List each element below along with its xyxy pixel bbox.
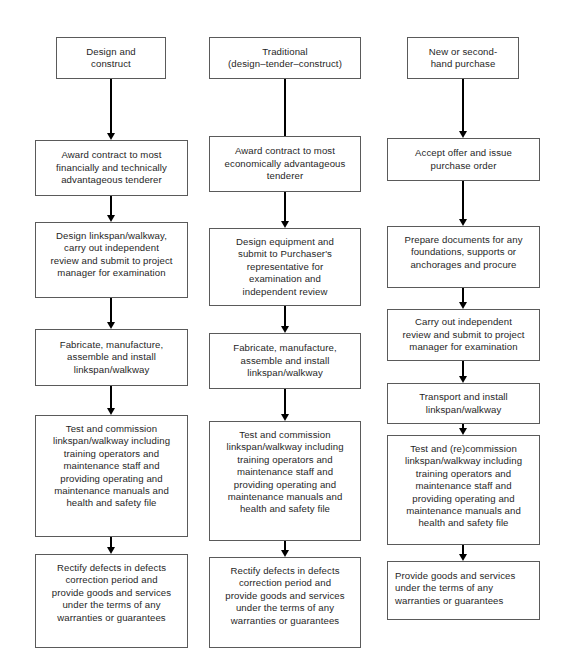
node-col2-step5: Rectify defects in defects correction pe… [209,557,361,648]
node-col3-step6-label: Provide goods and services under the ter… [395,570,536,607]
node-col3-step5: Test and (re)commission linkspan/walkway… [387,435,540,545]
node-col1-step3-label: Fabricate, manufacture, assemble and ins… [39,339,184,376]
node-col2-step4-label: Test and commission linkspan/walkway inc… [213,429,357,516]
node-col1-step1-label: Award contract to most financially and t… [39,149,184,186]
node-col3-step2-label: Prepare documents for any foundations, s… [391,234,536,271]
node-col1-step4: Test and commission linkspan/walkway inc… [35,415,188,537]
node-col2-step1: Award contract to most economically adva… [209,136,361,192]
node-col1-step1: Award contract to most financially and t… [35,140,188,196]
node-col3-step2: Prepare documents for any foundations, s… [387,226,540,288]
node-col3-step4-label: Transport and install linkspan/walkway [391,391,536,416]
node-col2-step3: Fabricate, manufacture, assemble and ins… [209,333,361,389]
node-col1-header-label: Design and construct [60,46,162,71]
node-col3-step1: Accept offer and issue purchase order [387,138,540,181]
node-col3-step1-label: Accept offer and issue purchase order [391,147,536,172]
node-col2-step4: Test and commission linkspan/walkway inc… [209,421,361,541]
node-col1-header: Design and construct [56,37,166,79]
node-col1-step5: Rectify defects in defects correction pe… [35,554,188,648]
node-col3-step5-label: Test and (re)commission linkspan/walkway… [391,443,536,530]
node-col3-step4: Transport and install linkspan/walkway [387,383,540,424]
node-col1-step4-label: Test and commission linkspan/walkway inc… [39,423,184,510]
node-col2-header: Traditional (design–tender–construct) [209,37,361,79]
node-col2-step3-label: Fabricate, manufacture, assemble and ins… [213,342,357,379]
node-col2-step5-label: Rectify defects in defects correction pe… [213,565,357,627]
node-col2-step2-label: Design equipment and submit to Purchaser… [213,236,357,298]
node-col1-step2: Design linkspan/walkway, carry out indep… [35,222,188,298]
node-col3-step3-label: Carry out independent review and submit … [391,316,536,353]
node-col2-step2: Design equipment and submit to Purchaser… [209,228,361,306]
node-col2-header-label: Traditional (design–tender–construct) [213,46,357,71]
node-col1-step3: Fabricate, manufacture, assemble and ins… [35,329,188,386]
node-col3-header-label: New or second- hand purchase [411,46,515,71]
node-col1-step5-label: Rectify defects in defects correction pe… [39,562,184,624]
node-col3-step3: Carry out independent review and submit … [387,309,540,361]
node-col2-step1-label: Award contract to most economically adva… [213,145,357,182]
node-col3-header: New or second- hand purchase [407,37,519,79]
node-col1-step2-label: Design linkspan/walkway, carry out indep… [39,230,184,280]
node-col3-step6: Provide goods and services under the ter… [387,561,540,620]
